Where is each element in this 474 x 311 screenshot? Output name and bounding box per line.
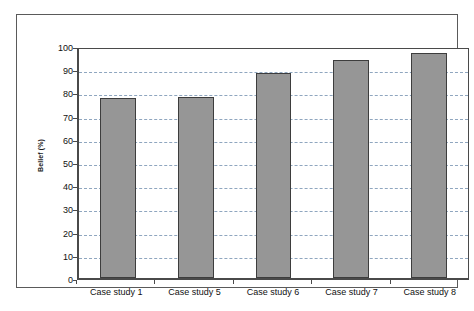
x-axis-tick-label: Case study 8 bbox=[391, 283, 469, 297]
bar-slot bbox=[312, 49, 390, 278]
x-axis-tick-mark bbox=[76, 280, 77, 284]
y-axis-title-label: Belief (%) bbox=[37, 139, 44, 172]
y-axis-tick-label: 90 bbox=[63, 66, 73, 76]
x-axis-tick-mark bbox=[233, 280, 234, 284]
y-axis-tick-label: 80 bbox=[63, 89, 73, 99]
bar-slot bbox=[235, 49, 313, 278]
x-axis-tick-group: Case study 8 bbox=[391, 283, 469, 301]
bar-series bbox=[79, 49, 468, 278]
x-axis-tick-label: Case study 5 bbox=[155, 283, 233, 297]
x-axis-tick-label: Case study 7 bbox=[312, 283, 390, 297]
bar-slot bbox=[157, 49, 235, 278]
bar-slot bbox=[390, 49, 468, 278]
x-axis-tick-group: Case study 1 bbox=[77, 283, 155, 301]
bar[interactable] bbox=[411, 53, 447, 278]
bar[interactable] bbox=[100, 98, 136, 278]
plot-area bbox=[77, 48, 469, 280]
bar-slot bbox=[79, 49, 157, 278]
x-axis-tick-group: Case study 6 bbox=[234, 283, 312, 301]
y-axis-tick-label: 50 bbox=[63, 159, 73, 169]
y-axis-tick-label: 20 bbox=[63, 229, 73, 239]
y-axis-tick-label: 100 bbox=[58, 43, 73, 53]
x-axis-tick-group: Case study 5 bbox=[155, 283, 233, 301]
bar[interactable] bbox=[333, 60, 369, 278]
y-axis-tick-label: 30 bbox=[63, 205, 73, 215]
bar[interactable] bbox=[178, 97, 214, 278]
y-axis-tick-label: 70 bbox=[63, 113, 73, 123]
y-axis-tick-label: 60 bbox=[63, 136, 73, 146]
y-axis-title: Belief (%) bbox=[33, 120, 47, 190]
y-axis-tick-label: 10 bbox=[63, 252, 73, 262]
x-axis-tick-labels: Case study 1Case study 5Case study 6Case… bbox=[77, 283, 469, 301]
x-axis-tick-mark bbox=[390, 280, 391, 284]
bar[interactable] bbox=[256, 73, 292, 278]
chart-frame: Belief (%) 0102030405060708090100 Case s… bbox=[16, 14, 458, 288]
y-axis-tick-labels: 0102030405060708090100 bbox=[51, 43, 77, 285]
y-axis-tick-label: 40 bbox=[63, 182, 73, 192]
x-axis-tick-group: Case study 7 bbox=[312, 283, 390, 301]
x-axis-tick-mark bbox=[311, 280, 312, 284]
x-axis-tick-label: Case study 6 bbox=[234, 283, 312, 297]
x-axis-tick-mark bbox=[154, 280, 155, 284]
x-axis-tick-label: Case study 1 bbox=[77, 283, 155, 297]
